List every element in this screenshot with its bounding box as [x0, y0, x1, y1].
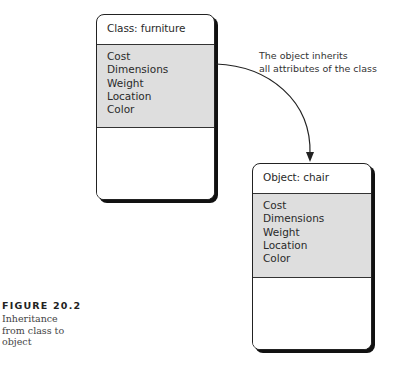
figure-description: Inheritance from class to object: [2, 313, 81, 348]
object-attribute: Weight: [263, 226, 361, 239]
object-attribute: Cost: [263, 199, 361, 212]
object-attribute: Location: [263, 239, 361, 252]
object-attributes: Cost Dimensions Weight Location Color: [253, 194, 371, 278]
object-title: Object: chair: [253, 164, 371, 194]
caption-line: object: [2, 336, 81, 348]
object-methods-section: [253, 278, 371, 349]
caption-line: Inheritance: [2, 313, 81, 325]
caption-line: from class to: [2, 325, 81, 337]
arrow-curve: [216, 64, 310, 155]
object-attribute: Dimensions: [263, 212, 361, 225]
figure-caption: FIGURE 20.2 Inheritance from class to ob…: [2, 300, 81, 348]
object-chair-box: Object: chair Cost Dimensions Weight Loc…: [252, 163, 372, 350]
figure-number: FIGURE 20.2: [2, 300, 81, 311]
object-attribute: Color: [263, 252, 361, 265]
arrowhead-icon: [306, 152, 314, 162]
